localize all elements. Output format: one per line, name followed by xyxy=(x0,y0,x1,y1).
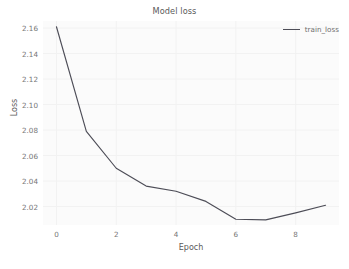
series-train-loss xyxy=(43,21,339,225)
y-tick-label: 2.14 xyxy=(22,49,38,58)
plot-area xyxy=(43,21,339,225)
y-tick-label: 2.08 xyxy=(22,126,38,135)
chart-title: Model loss xyxy=(0,6,349,16)
y-axis-label: Loss xyxy=(10,78,19,138)
y-tick-label: 2.10 xyxy=(22,100,38,109)
chart-legend: train_loss xyxy=(280,23,342,36)
x-tick-label: 0 xyxy=(54,230,59,239)
series-line-train_loss xyxy=(56,27,325,220)
x-tick-label: 2 xyxy=(114,230,119,239)
legend-label-train-loss: train_loss xyxy=(305,25,339,34)
x-tick-label: 4 xyxy=(174,230,179,239)
legend-line-swatch xyxy=(283,29,300,30)
x-axis-label: Epoch xyxy=(43,243,339,252)
x-tick-label: 8 xyxy=(293,230,298,239)
y-tick-label: 2.06 xyxy=(22,151,38,160)
y-tick-label: 2.02 xyxy=(22,202,38,211)
y-tick-label: 2.04 xyxy=(22,177,38,186)
y-tick-label: 2.16 xyxy=(22,24,38,33)
chart-figure: Model loss 2.022.042.062.082.102.122.142… xyxy=(0,0,349,269)
y-tick-label: 2.12 xyxy=(22,75,38,84)
x-tick-label: 6 xyxy=(234,230,239,239)
